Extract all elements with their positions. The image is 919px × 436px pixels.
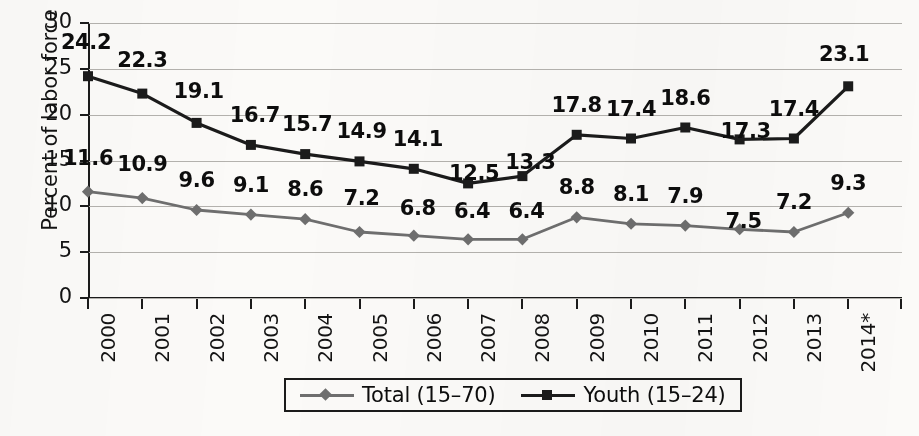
data-label: 19.1	[173, 79, 223, 103]
data-label: 9.6	[179, 168, 215, 192]
y-tick-label: 0	[32, 284, 72, 308]
x-tick-label: 2008	[530, 313, 554, 363]
data-label: 12.5	[449, 161, 499, 185]
x-tick-mark	[467, 299, 469, 309]
data-label: 17.4	[606, 97, 656, 121]
x-tick-label: 2012	[748, 313, 772, 363]
data-label: 13.3	[505, 150, 555, 174]
data-label: 16.7	[230, 103, 280, 127]
y-tick-mark	[80, 22, 89, 24]
x-tick-label: 2014*	[856, 313, 880, 372]
x-tick-mark	[630, 299, 632, 309]
x-tick-label: 2003	[259, 313, 283, 363]
x-tick-mark	[847, 299, 849, 309]
x-tick-label: 2010	[639, 313, 663, 363]
data-label: 7.2	[776, 190, 812, 214]
gridline	[88, 298, 902, 299]
x-axis-right-cap	[900, 299, 902, 309]
chart-figure: Percent of labor force 302520151050 2000…	[0, 0, 919, 436]
diamond-marker-icon	[300, 387, 354, 403]
data-label: 6.8	[400, 196, 436, 220]
x-tick-mark	[413, 299, 415, 309]
chart-legend: Total (15–70) Youth (15–24)	[284, 378, 742, 412]
data-label: 23.1	[819, 42, 869, 66]
x-tick-label: 2011	[693, 313, 717, 363]
x-tick-mark	[141, 299, 143, 309]
x-tick-mark	[196, 299, 198, 309]
y-tick-label: 5	[32, 238, 72, 262]
square-marker-icon	[521, 387, 575, 403]
x-tick-mark	[739, 299, 741, 309]
data-label: 24.2	[61, 30, 111, 54]
gridline	[88, 252, 902, 253]
data-label: 17.3	[720, 119, 770, 143]
legend-item-youth[interactable]: Youth (15–24)	[521, 383, 725, 407]
y-tick-mark	[80, 205, 89, 207]
x-tick-mark	[793, 299, 795, 309]
data-label: 10.9	[117, 152, 167, 176]
x-tick-mark	[304, 299, 306, 309]
x-tick-label: 2007	[476, 313, 500, 363]
data-label: 14.9	[336, 119, 386, 143]
y-tick-label: 25	[32, 55, 72, 79]
data-label: 7.5	[726, 209, 762, 233]
data-label: 15.7	[282, 112, 332, 136]
data-label: 22.3	[117, 48, 167, 72]
data-label: 7.2	[343, 186, 379, 210]
y-tick-label: 20	[32, 101, 72, 125]
x-tick-mark	[359, 299, 361, 309]
x-tick-mark	[576, 299, 578, 309]
x-tick-mark	[250, 299, 252, 309]
data-label: 6.4	[454, 199, 490, 223]
data-label: 8.8	[559, 175, 595, 199]
y-tick-label: 10	[32, 192, 72, 216]
data-label: 9.3	[830, 171, 866, 195]
legend-label-youth: Youth (15–24)	[583, 383, 725, 407]
data-label: 7.9	[667, 184, 703, 208]
legend-item-total[interactable]: Total (15–70)	[300, 383, 495, 407]
data-label: 18.6	[660, 86, 710, 110]
y-tick-mark	[80, 68, 89, 70]
data-label: 6.4	[508, 199, 544, 223]
x-tick-label: 2005	[368, 313, 392, 363]
data-label: 9.1	[233, 173, 269, 197]
data-label: 14.1	[393, 127, 443, 151]
gridline	[88, 69, 902, 70]
data-label: 11.6	[63, 146, 113, 170]
x-tick-label: 2004	[313, 313, 337, 363]
legend-label-total: Total (15–70)	[362, 383, 495, 407]
y-tick-mark	[80, 114, 89, 116]
x-tick-mark	[684, 299, 686, 309]
x-tick-label: 2001	[150, 313, 174, 363]
x-tick-label: 2006	[422, 313, 446, 363]
x-tick-label: 2009	[585, 313, 609, 363]
y-axis-title: Percent of labor force	[38, 0, 62, 260]
y-tick-mark	[80, 251, 89, 253]
data-label: 8.1	[613, 182, 649, 206]
data-label: 17.8	[552, 93, 602, 117]
x-tick-mark	[87, 299, 89, 309]
x-tick-label: 2000	[96, 313, 120, 363]
data-label: 8.6	[287, 177, 323, 201]
x-tick-label: 2013	[802, 313, 826, 363]
x-tick-label: 2002	[205, 313, 229, 363]
data-label: 17.4	[769, 97, 819, 121]
gridline	[88, 23, 902, 24]
x-tick-mark	[521, 299, 523, 309]
